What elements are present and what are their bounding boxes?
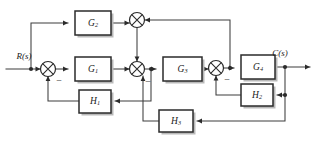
block-g2-subscript: 2: [95, 21, 98, 28]
block-g1[interactable]: G1: [75, 57, 114, 84]
block-g3-subscript: 3: [183, 67, 187, 74]
sign-minus-sum1: −: [56, 75, 62, 86]
block-h2-subscript: 2: [259, 93, 262, 100]
sign-minus-sum4: −: [224, 74, 230, 85]
block-g4-subscript: 4: [260, 65, 263, 72]
node-h2-feedback: [283, 93, 287, 97]
block-diagram-svg: G2 G1 G3 G4 H1 H2: [0, 0, 315, 141]
node-after-junction-3: [149, 67, 153, 71]
block-g3[interactable]: G3: [163, 57, 205, 84]
arrow-into-g1: [63, 67, 68, 72]
summing-junction-4[interactable]: [209, 61, 224, 76]
summing-junction-1[interactable]: [41, 62, 56, 77]
arrow-into-sum3-left: [125, 67, 130, 72]
arrow-sum2-to-sum3: [135, 57, 140, 62]
sign-minus-sum3: −: [145, 76, 151, 87]
arrow-into-sum2-left: [125, 21, 130, 26]
arrow-into-g2: [63, 21, 68, 26]
node-output-branch: [283, 65, 287, 69]
node-input-branch: [29, 67, 33, 71]
arrow-into-sum1: [36, 67, 41, 72]
block-h3[interactable]: H3: [159, 110, 196, 135]
arrow-into-sum4-minus: [214, 76, 219, 81]
arrow-into-h2: [277, 93, 282, 98]
summing-junction-3[interactable]: [130, 62, 145, 77]
block-h2[interactable]: H2: [241, 84, 276, 109]
arrow-into-h3: [197, 119, 202, 124]
arrow-into-h1: [115, 99, 120, 104]
summing-junction-2[interactable]: [130, 13, 145, 28]
output-signal-label: C(s): [272, 48, 288, 58]
arrow-output: [305, 65, 310, 70]
block-g4[interactable]: G4: [241, 55, 278, 82]
block-g1-subscript: 1: [95, 67, 98, 74]
node-before-g4: [228, 66, 232, 70]
block-h1[interactable]: H1: [79, 90, 114, 116]
block-g2[interactable]: G2: [75, 11, 114, 38]
block-h3-subscript: 3: [177, 119, 181, 126]
arrow-into-sum2-right: [145, 18, 150, 23]
block-diagram-canvas: G2 G1 G3 G4 H1 H2: [0, 0, 315, 141]
input-signal-label: R(s): [16, 51, 32, 61]
block-h1-subscript: 1: [97, 100, 100, 107]
